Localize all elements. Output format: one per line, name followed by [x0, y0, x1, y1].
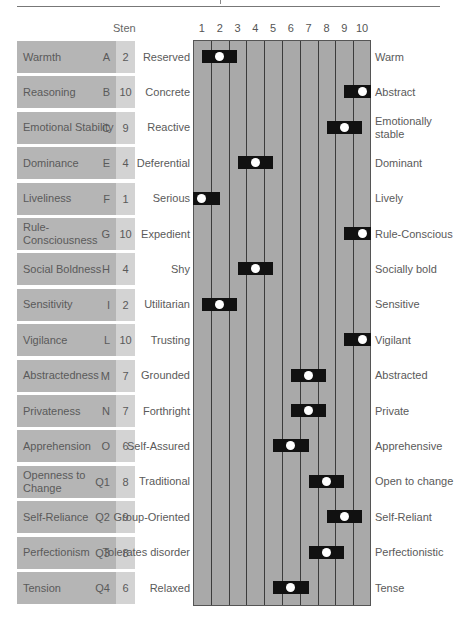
factor-row: AbstractednessM7GroundedAbstracted: [0, 359, 458, 394]
factor-code: H: [84, 253, 116, 285]
factor-row: ApprehensionO6Self-AssuredApprehensive: [0, 429, 458, 464]
high-pole-label: Emotionally stable: [375, 112, 458, 144]
factor-code: L: [84, 324, 116, 356]
factor-code: C: [84, 112, 116, 144]
score-marker: [340, 123, 349, 132]
factor-code: E: [84, 147, 116, 179]
high-pole-label: Dominant: [375, 147, 422, 179]
tick-label: 7: [300, 22, 318, 34]
low-pole-label: Trusting: [151, 324, 190, 356]
sten-score: 7: [116, 360, 135, 392]
low-pole-label: Deferential: [137, 147, 190, 179]
low-pole-label: Reserved: [143, 41, 190, 73]
tick-label: 8: [318, 22, 336, 34]
factor-row: Rule-ConsciousnessG10ExpedientRule-Consc…: [0, 217, 458, 252]
score-marker: [251, 158, 260, 167]
factor-row: LivelinessF1SeriousLively: [0, 182, 458, 217]
score-marker: [197, 194, 206, 203]
factor-code: I: [84, 289, 116, 321]
top-rule: [17, 6, 440, 7]
tick-label: 1: [193, 22, 211, 34]
sten-score: 2: [116, 41, 135, 73]
high-pole-label: Warm: [375, 41, 404, 73]
high-pole-label: Lively: [375, 183, 403, 215]
sten-score: 10: [116, 218, 135, 250]
factor-row: Social BoldnessH4ShySocially bold: [0, 252, 458, 287]
scale-ticks: 1 2 3 4 5 6 7 8 9 10: [193, 22, 371, 34]
high-pole-label: Apprehensive: [375, 430, 442, 462]
tick-label: 3: [229, 22, 247, 34]
factor-code: Q1: [84, 466, 116, 498]
high-pole-label: Rule-Conscious: [375, 218, 453, 250]
factor-code: O: [84, 430, 116, 462]
factor-row: DominanceE4DeferentialDominant: [0, 146, 458, 181]
high-pole-label: Open to change: [375, 466, 453, 498]
high-pole-label: Vigilant: [375, 324, 411, 356]
factor-row: Emotional StabilityC9ReactiveEmotionally…: [0, 111, 458, 146]
tick-label: 9: [335, 22, 353, 34]
factor-row: WarmthA2ReservedWarm: [0, 40, 458, 75]
score-marker: [322, 548, 331, 557]
sten-score: 9: [116, 112, 135, 144]
tick-label: 4: [246, 22, 264, 34]
score-marker: [340, 512, 349, 521]
tick-label: 6: [282, 22, 300, 34]
low-pole-label: Serious: [153, 183, 190, 215]
score-marker: [358, 335, 367, 344]
factor-code: A: [84, 41, 116, 73]
sten-score: 4: [116, 147, 135, 179]
high-pole-label: Socially bold: [375, 253, 437, 285]
low-pole-label: Shy: [171, 253, 190, 285]
factor-row: VigilanceL10TrustingVigilant: [0, 323, 458, 358]
low-pole-label: Traditional: [139, 466, 190, 498]
sten-score: 8: [116, 466, 135, 498]
tick-label: 10: [353, 22, 371, 34]
factor-row: Self-RelianceQ29Group-OrientedSelf-Relia…: [0, 500, 458, 535]
high-pole-label: Self-Reliant: [375, 501, 432, 533]
sten-column-header: Sten: [113, 22, 136, 34]
sten-score: 10: [116, 76, 135, 108]
sten-score: 10: [116, 324, 135, 356]
factor-code: G: [84, 218, 116, 250]
high-pole-label: Private: [375, 395, 409, 427]
sten-score: 4: [116, 253, 135, 285]
low-pole-label: Relaxed: [150, 572, 190, 604]
top-tick-mark: [220, 0, 221, 4]
factor-row: TensionQ46RelaxedTense: [0, 571, 458, 606]
factor-code: Q4: [84, 572, 116, 604]
low-pole-label: Grounded: [141, 360, 190, 392]
sten-score: 6: [116, 572, 135, 604]
factor-row: SensitivityI2UtilitarianSensitive: [0, 288, 458, 323]
low-pole-label: Reactive: [147, 112, 190, 144]
low-pole-label: Tolerates disorder: [103, 537, 190, 569]
low-pole-label: Expedient: [141, 218, 190, 250]
sten-score: 2: [116, 289, 135, 321]
low-pole-label: Self-Assured: [127, 430, 190, 462]
score-marker: [322, 477, 331, 486]
low-pole-label: Utilitarian: [144, 289, 190, 321]
sten-score: 1: [116, 183, 135, 215]
factor-code: N: [84, 395, 116, 427]
factor-code: B: [84, 76, 116, 108]
tick-label: 2: [211, 22, 229, 34]
score-marker: [358, 229, 367, 238]
score-marker: [215, 300, 224, 309]
low-pole-label: Forthright: [143, 395, 190, 427]
factor-row: PrivatenessN7ForthrightPrivate: [0, 394, 458, 429]
low-pole-label: Concrete: [145, 76, 190, 108]
high-pole-label: Perfectionistic: [375, 537, 443, 569]
high-pole-label: Abstracted: [375, 360, 428, 392]
low-pole-label: Group-Oriented: [114, 501, 190, 533]
high-pole-label: Abstract: [375, 76, 415, 108]
high-pole-label: Sensitive: [375, 289, 420, 321]
factor-row: PerfectionismQ38Tolerates disorderPerfec…: [0, 536, 458, 571]
factor-row: Openness to ChangeQ18TraditionalOpen to …: [0, 465, 458, 500]
factor-code: M: [84, 360, 116, 392]
high-pole-label: Tense: [375, 572, 404, 604]
score-marker: [304, 371, 313, 380]
tick-label: 5: [264, 22, 282, 34]
factor-row: ReasoningB10ConcreteAbstract: [0, 75, 458, 110]
factor-code: Q2: [84, 501, 116, 533]
factor-code: F: [84, 183, 116, 215]
sten-score: 7: [116, 395, 135, 427]
